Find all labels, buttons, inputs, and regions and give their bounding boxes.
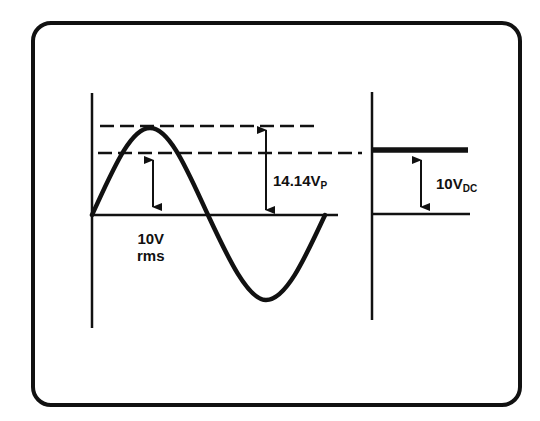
waveform-canvas (0, 0, 540, 421)
rms-label-value: 10V (137, 230, 165, 247)
rms-label-unit: rms (137, 247, 165, 264)
peak-voltage-label: 14.14VP (273, 172, 327, 194)
rms-voltage-label: 10V rms (137, 230, 165, 264)
dc-voltage-label: 10VDC (436, 175, 477, 197)
